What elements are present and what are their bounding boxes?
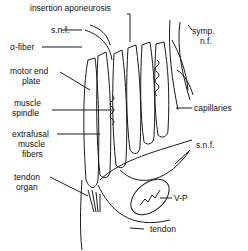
- label-capillaries: capillaries: [194, 104, 232, 114]
- label-extrafusal-line3: fibers: [22, 150, 43, 160]
- label-snf-right: s.n.f.: [196, 141, 214, 151]
- muscle-innervation-diagram: insertion aponeurosis s.n.f. symp. n.f. …: [0, 0, 248, 251]
- label-insertion-aponeurosis: insertion aponeurosis: [30, 4, 111, 14]
- label-tendon-organ-line2: organ: [16, 183, 38, 193]
- label-tendon: tendon: [150, 225, 176, 235]
- label-muscle-spindle-line2: spindle: [12, 109, 39, 119]
- label-alpha-fiber: α-fiber: [10, 43, 34, 53]
- label-motor-end-plate-line2: plate: [22, 77, 40, 87]
- label-symp-nf-line2: n.f.: [200, 37, 212, 47]
- label-vp: V-P: [174, 194, 188, 204]
- label-snf-top: s.n.f.: [51, 26, 69, 36]
